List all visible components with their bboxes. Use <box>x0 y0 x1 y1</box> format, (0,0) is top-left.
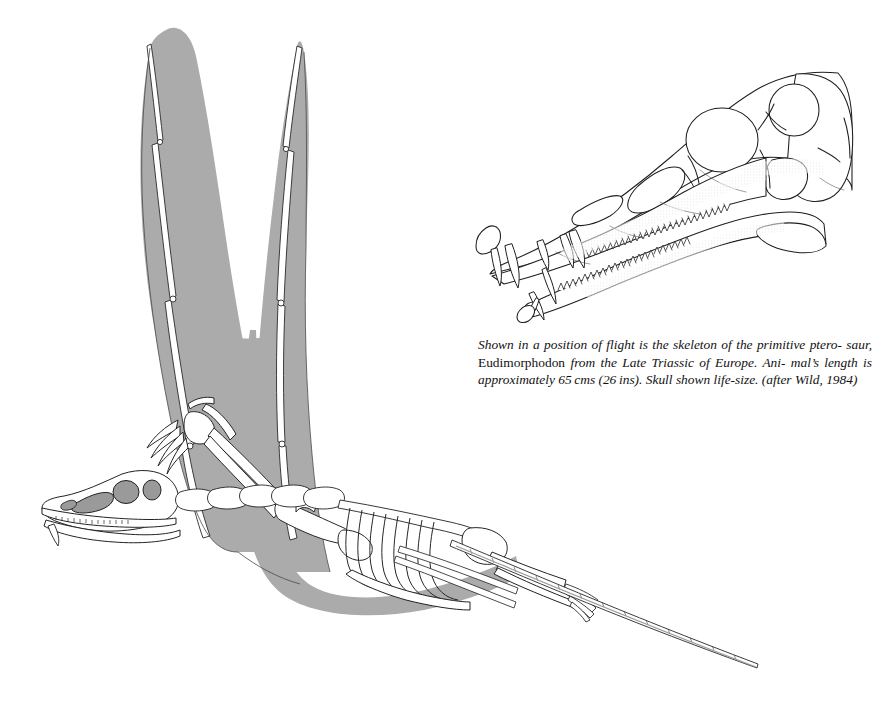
left-wing-joint-1 <box>157 139 162 144</box>
right-wing-phalanx-2 <box>277 304 286 442</box>
tail-rod <box>450 540 758 668</box>
right-wing-joint-3 <box>279 441 285 447</box>
skeleton-skull <box>42 471 180 546</box>
cervical-vertebrae <box>176 485 345 511</box>
caption-genus-name: Eudimorphodon <box>478 355 565 370</box>
skull-orbit <box>686 108 758 172</box>
skeleton-skull-orbit <box>113 481 139 504</box>
skeleton-skull-temporal-fenestra <box>143 480 161 500</box>
caption-line-2-a: saur, <box>846 337 872 352</box>
skull-mandible-tip <box>517 305 535 322</box>
skull-upper-temporal-fenestra <box>769 84 819 136</box>
life-size-skull-group <box>476 72 853 322</box>
caption-line-2-b: from the Late Triassic of Europe. Ani- <box>570 355 785 370</box>
scapulocoracoid <box>338 530 372 560</box>
left-wing-joint-2 <box>170 296 176 302</box>
figure-caption: Shown in a position of flight is the ske… <box>478 336 872 389</box>
caption-line-4: life-size. (after Wild, 1984) <box>713 372 857 387</box>
caption-line-1: Shown in a position of flight is the ske… <box>478 337 842 352</box>
right-wing-joint-2 <box>278 300 284 306</box>
right-wing-joint-1 <box>283 146 288 151</box>
illustration-plate: Shown in a position of flight is the ske… <box>0 0 892 722</box>
caudal-vertebrae-tail <box>450 540 758 668</box>
